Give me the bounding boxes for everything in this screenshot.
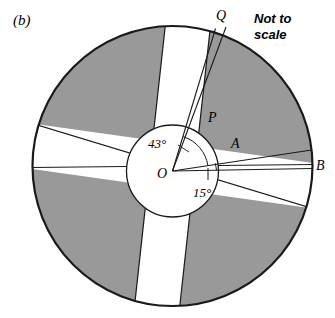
figure-canvas: (b) Not to scale Q P A B O 43° 15° (0, 0, 335, 318)
not-to-scale-note: Not to scale (254, 11, 292, 44)
point-label-a: A (231, 136, 240, 152)
angle-label-15: 15° (193, 185, 211, 201)
point-label-q: Q (216, 8, 226, 24)
circle-sector-diagram (0, 0, 335, 318)
not-to-scale-line-1: Not to (254, 11, 292, 27)
part-label: (b) (13, 13, 31, 29)
angle-label-43: 43° (148, 136, 166, 152)
point-label-p: P (208, 110, 217, 126)
not-to-scale-line-2: scale (254, 27, 292, 43)
point-label-b: B (316, 158, 325, 174)
point-label-o: O (157, 166, 167, 182)
